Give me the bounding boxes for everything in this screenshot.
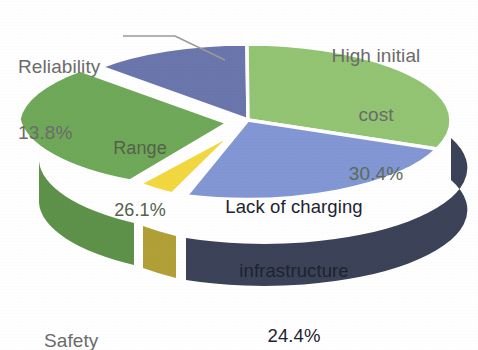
slice-label-range-name: Range [92, 138, 188, 159]
slice-label-range-percent: 26.1% [92, 200, 188, 221]
slice-label-lack-of-charging-line2: infrastructure [196, 260, 392, 281]
slice-label-high-initial-cost-line1: High initial [316, 45, 436, 67]
slice-label-lack-of-charging: Lack of charging infrastructure 24.4% [196, 153, 392, 350]
slice-label-lack-of-charging-line1: Lack of charging [196, 196, 392, 217]
slice-label-high-initial-cost-line2: cost [316, 104, 436, 126]
slice-label-reliability-percent: 13.8% [18, 122, 100, 144]
slice-label-safety: Safety 4.3% [44, 286, 98, 350]
slice-label-safety-name: Safety [44, 330, 98, 350]
slice-label-lack-of-charging-percent: 24.4% [196, 325, 392, 346]
slice-label-reliability: Reliability 13.8% [18, 12, 100, 188]
slice-label-range: Range 26.1% [92, 96, 188, 263]
pie-chart: Reliability 13.8% High initial cost 30.4… [0, 0, 478, 350]
slice-label-reliability-name: Reliability [18, 56, 100, 78]
